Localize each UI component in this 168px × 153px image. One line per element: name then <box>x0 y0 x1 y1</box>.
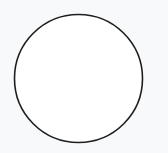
diagram-canvas <box>0 0 168 153</box>
diagram-svg <box>0 0 168 153</box>
circle-shape <box>15 15 143 143</box>
